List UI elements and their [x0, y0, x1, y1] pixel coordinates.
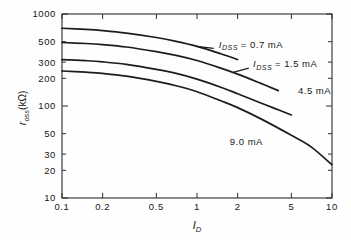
- curve-series-3: [62, 71, 332, 165]
- y-tick-label-100: 100: [38, 100, 56, 111]
- x-axis-title-text: ID: [193, 219, 202, 234]
- data-curves: [62, 28, 332, 164]
- x-axis-title-subscript: D: [196, 225, 202, 234]
- y-axis-title-text: ross(kΩ): [16, 91, 31, 125]
- y-tick-label-30: 30: [44, 149, 56, 160]
- x-tick-label-1: 1: [194, 201, 200, 212]
- x-tick-label-0.5: 0.5: [149, 201, 164, 212]
- plot-frame: [62, 14, 332, 198]
- y-axis-title-unit: (kΩ): [17, 91, 28, 110]
- curve-label-subscript-0: DSS: [222, 44, 238, 51]
- y-tick-label-300: 300: [38, 57, 56, 68]
- curve-label-subscript-1: DSS: [256, 64, 272, 71]
- y-tick-label-200: 200: [38, 73, 56, 84]
- resistance-vs-drain-current-chart: 102030501002003005001000 0.10.20.512510 …: [0, 0, 351, 240]
- figure-page: 102030501002003005001000 0.10.20.512510 …: [0, 0, 351, 240]
- x-tick-label-5: 5: [288, 201, 294, 212]
- leader-1.5ma: [233, 68, 249, 72]
- x-axis-ticks: [62, 14, 332, 198]
- y-axis-title: ross(kΩ): [16, 91, 31, 125]
- x-tick-label-2: 2: [235, 201, 241, 212]
- curve-label-text-1: = 1.5 mA: [275, 58, 317, 69]
- curve-label-2: 4.5 mA: [298, 85, 331, 96]
- y-tick-label-20: 20: [44, 165, 56, 176]
- curve-label-text-2: 4.5 mA: [298, 85, 331, 96]
- y-tick-label-500: 500: [38, 36, 56, 47]
- y-tick-label-1000: 1000: [32, 8, 56, 19]
- curve-label-text-0: = 0.7 mA: [241, 39, 283, 50]
- x-tick-label-0.2: 0.2: [95, 201, 110, 212]
- y-axis-ticks: [62, 14, 332, 198]
- curve-label-3: 9.0 mA: [230, 136, 263, 147]
- plot-border: [62, 14, 332, 198]
- x-tick-label-0.1: 0.1: [54, 201, 69, 212]
- curve-label-text-3: 9.0 mA: [230, 136, 263, 147]
- x-axis-tick-labels: 0.10.20.512510: [54, 201, 337, 212]
- curve-label-0: IDSS= 0.7 mA: [219, 39, 283, 52]
- y-axis-tick-labels: 102030501002003005001000: [32, 8, 56, 203]
- y-axis-title-subscript: oss: [22, 110, 31, 122]
- x-axis-title: ID: [193, 219, 202, 234]
- curve-label-1: IDSS= 1.5 mA: [253, 58, 317, 71]
- x-tick-label-10: 10: [326, 201, 338, 212]
- y-tick-label-50: 50: [44, 128, 56, 139]
